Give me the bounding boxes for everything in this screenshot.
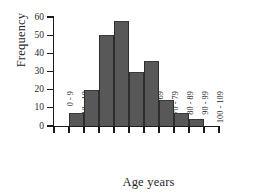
y-axis-tick-label: 20 [24,85,44,94]
x-axis-title: Age years [0,175,259,190]
y-axis-tick [47,53,54,54]
y-axis-tick-label: 50 [24,31,44,40]
histogram-bar [69,113,84,126]
y-axis-tick-label: 40 [24,49,44,58]
y-axis-tick-label: 10 [24,103,44,112]
histogram-bar [144,61,159,126]
histogram-bar [174,113,189,126]
y-axis-tick [47,71,54,72]
histogram-bar [159,100,174,126]
y-axis-tick-label: 0 [24,122,44,131]
histogram-bar [114,21,129,126]
y-axis-tick-label: 30 [24,67,44,76]
plot-area [54,17,219,126]
histogram-figure: Frequency 0102030405060 0 - 910 - 1920 -… [0,0,259,194]
x-axis-tick [53,126,54,133]
y-axis-tick [47,107,54,108]
y-axis-tick [47,35,54,36]
histogram-bar [99,35,114,126]
histogram-bar [189,119,204,126]
histogram-bar [129,72,144,127]
y-axis-tick [47,16,54,17]
histogram-bar [84,90,99,126]
y-axis-tick-label: 60 [24,13,44,22]
y-axis-tick [47,89,54,90]
